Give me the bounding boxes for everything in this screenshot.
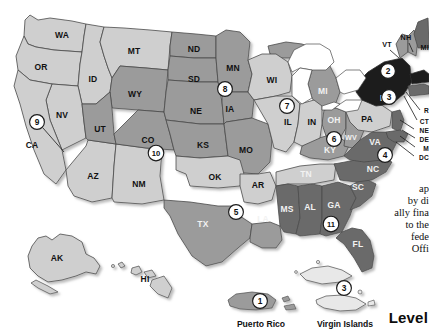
edge-label-RI: R [424, 107, 429, 114]
state-label-AL: AL [304, 202, 316, 212]
state-KS[interactable] [166, 120, 228, 158]
state-MA[interactable] [410, 70, 429, 84]
region-badge-11[interactable]: 11 [323, 216, 339, 232]
edge-label-DE: DE [419, 136, 429, 143]
sidepanel-text-line-6: Offi [412, 243, 429, 254]
state-label-OK: OK [208, 172, 222, 182]
state-label-NC: NC [367, 164, 380, 174]
region-badge-4-label: 4 [383, 150, 388, 160]
sidepanel-text-line-4: to the [405, 219, 429, 230]
state-label-IL: IL [284, 117, 292, 127]
region-badge-11-label: 11 [327, 220, 336, 229]
edge-state-labels: MI R CT NE DE M DC [419, 43, 429, 161]
state-label-MN: MN [226, 63, 240, 73]
state-label-WV: WV [345, 133, 357, 142]
state-label-CA: CA [26, 140, 39, 150]
state-label-MO: MO [239, 145, 253, 155]
state-label-MS: MS [280, 204, 293, 214]
sidepanel-line-6: Offi [412, 243, 429, 254]
state-label-HI: HI [141, 274, 150, 284]
us-region-map: WA OR ID MT ND SD NE KS MN IA MO WI IL I… [0, 0, 429, 332]
sidepanel-line-5: fede [411, 231, 429, 242]
state-label-WY: WY [128, 89, 142, 99]
state-LA[interactable] [250, 222, 282, 248]
sidepanel-line-2: by di [408, 195, 429, 206]
region-badge-1[interactable]: 1 [253, 294, 268, 309]
state-label-NV: NV [56, 110, 68, 120]
region-badge-1-label: 1 [258, 296, 263, 306]
state-label-FL: FL [353, 239, 364, 249]
state-label-SC: SC [352, 182, 364, 192]
state-label-VT: VT [382, 40, 392, 49]
region-badge-2-label: 2 [386, 66, 391, 76]
state-label-ND: ND [188, 44, 201, 54]
state-label-CO: CO [141, 135, 154, 145]
map-figure: WA OR ID MT ND SD NE KS MN IA MO WI IL I… [0, 0, 429, 332]
region-badge-2[interactable]: 2 [381, 64, 396, 79]
state-CT-RI[interactable] [408, 84, 429, 96]
sidepanel-text-line-5: fede [411, 231, 429, 242]
region-badge-8[interactable]: 8 [218, 82, 233, 97]
sidepanel-text-line-1: ap [419, 183, 429, 194]
state-label-NH: NH [401, 33, 412, 42]
alaska-aleutians [31, 280, 58, 294]
state-label-ID: ID [89, 74, 98, 84]
sidepanel-heading: Level [389, 309, 428, 326]
territory-captions: Puerto Rico Virgin Islands [237, 319, 373, 329]
sidepanel-line-1: ap [419, 183, 429, 194]
state-label-NE: NE [190, 106, 202, 116]
state-label-NM: NM [132, 179, 146, 189]
leader-CT [404, 96, 417, 120]
state-label-LA: LA [257, 214, 269, 224]
region-badge-6-label: 6 [332, 134, 337, 144]
sidepanel-text-line-2: by di [408, 195, 429, 206]
edge-label-CT: CT [420, 118, 429, 125]
edge-label-MI: MI [421, 43, 429, 52]
territory-caption-puerto-rico: Puerto Rico [237, 319, 285, 329]
mainland-states-group [14, 15, 429, 311]
region-badge-5[interactable]: 5 [229, 205, 244, 220]
region-badge-9[interactable]: 9 [30, 115, 45, 130]
region-badge-3-vi-label: 3 [342, 283, 347, 293]
state-label-AR: AR [252, 180, 265, 190]
region-badge-7-label: 7 [285, 101, 290, 111]
state-label-OH: OH [327, 115, 340, 125]
state-label-UT: UT [94, 124, 106, 134]
state-label-PA: PA [361, 114, 373, 124]
region-badge-3-label: 3 [387, 92, 392, 102]
region-badge-3[interactable]: 3 [382, 90, 397, 105]
sidepanel-line-3: ally fina [394, 207, 429, 218]
sidepanel-text-line-3: ally fina [394, 207, 429, 218]
state-label-SD: SD [188, 74, 200, 84]
edge-label-NJ: NE [419, 127, 429, 134]
edge-label-DC: DC [419, 154, 429, 161]
state-label-MT: MT [128, 46, 141, 56]
state-label-TX: TX [197, 219, 208, 229]
state-label-OR: OR [34, 62, 47, 72]
state-label-AZ: AZ [87, 171, 99, 181]
state-label-WI: WI [267, 75, 278, 85]
state-label-IA: IA [226, 104, 235, 114]
state-label-VA: VA [369, 137, 381, 147]
region-badge-3-vi[interactable]: 3 [337, 281, 352, 296]
region-badge-6[interactable]: 6 [327, 132, 342, 147]
region-badge-4[interactable]: 4 [378, 148, 393, 163]
region-badge-9-label: 9 [35, 117, 40, 127]
territory-caption-virgin-islands: Virgin Islands [317, 319, 373, 329]
region-badge-10[interactable]: 10 [148, 145, 164, 161]
state-label-GA: GA [327, 200, 340, 210]
state-FL[interactable] [336, 228, 374, 272]
region-badge-10-label: 10 [152, 149, 160, 158]
state-label-AK: AK [51, 253, 64, 263]
region-badge-7[interactable]: 7 [280, 99, 295, 114]
state-label-WA: WA [55, 30, 69, 40]
sidepanel-line-4: to the [405, 219, 429, 230]
region-badge-5-label: 5 [234, 207, 239, 217]
state-label-MI: MI [318, 86, 328, 96]
state-label-KS: KS [197, 140, 209, 150]
state-NE[interactable] [164, 80, 224, 124]
state-AK[interactable] [28, 234, 100, 282]
edge-label-MD: M [423, 145, 429, 152]
state-label-IN: IN [308, 117, 317, 127]
region-badge-8-label: 8 [223, 84, 228, 94]
